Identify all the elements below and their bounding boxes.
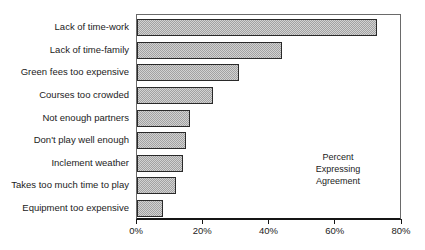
category-label: Don't play well enough	[0, 134, 129, 145]
x-tick-label: 40%	[259, 225, 278, 236]
annotation-line: Percent	[297, 151, 379, 163]
category-label: Equipment too expensive	[0, 202, 129, 213]
bar	[137, 132, 186, 149]
bar	[137, 87, 213, 104]
bar	[137, 200, 163, 217]
bar	[137, 110, 190, 127]
plot-area: Percent Expressing Agreement	[136, 14, 401, 220]
category-labels: Lack of time-workLack of time-familyGree…	[0, 0, 132, 250]
annotation-line: Expressing	[297, 163, 379, 175]
x-tick-mark	[202, 219, 203, 224]
x-tick-mark	[401, 219, 402, 224]
category-label: Lack of time-work	[0, 21, 129, 32]
x-tick-label: 20%	[193, 225, 212, 236]
x-tick-label: 80%	[391, 225, 410, 236]
category-label: Courses too crowded	[0, 89, 129, 100]
category-label: Green fees too expensive	[0, 66, 129, 77]
x-tick-mark	[136, 219, 137, 224]
x-tick-mark	[268, 219, 269, 224]
category-label: Takes too much time to play	[0, 179, 129, 190]
bar	[137, 19, 377, 36]
bar	[137, 64, 239, 81]
x-axis: 0%20%40%60%80%	[136, 219, 401, 243]
x-tick-mark	[334, 219, 335, 224]
bar-series	[137, 15, 400, 218]
bar	[137, 155, 183, 172]
x-tick-label: 0%	[129, 225, 143, 236]
x-tick-label: 60%	[325, 225, 344, 236]
bar	[137, 42, 282, 59]
horizontal-bar-chart: Lack of time-workLack of time-familyGree…	[0, 0, 425, 250]
annotation-line: Agreement	[297, 175, 379, 187]
axis-annotation: Percent Expressing Agreement	[297, 151, 379, 187]
bar	[137, 177, 176, 194]
category-label: Inclement weather	[0, 157, 129, 168]
category-label: Not enough partners	[0, 112, 129, 123]
category-label: Lack of time-family	[0, 44, 129, 55]
